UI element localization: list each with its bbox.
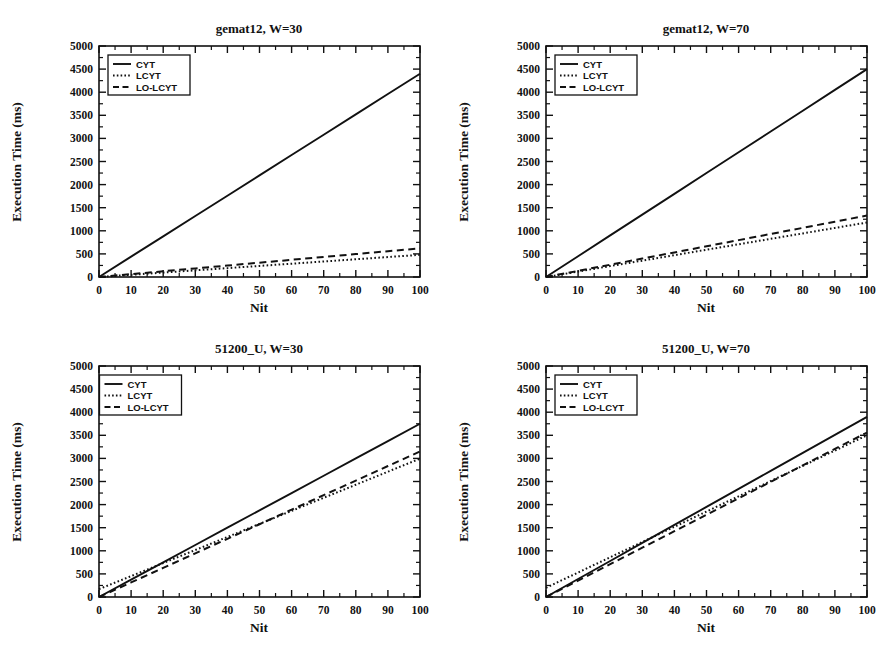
chart-svg-bottom-right: 51200_U, W=70 05001000150020002500300035… [447,320,893,654]
chart-panel-bottom-left: 51200_U, W=30 05001000150020002500300035… [0,320,446,654]
panel-title-bottom-right: 51200_U, W=70 [662,341,750,356]
x-tick-label: 80 [797,604,809,616]
y-tick-label: 2000 [70,499,93,511]
panel-title-top-left: gemat12, W=30 [216,21,303,36]
y-tick-label: 5000 [517,40,540,52]
panel-title-bottom-left: 51200_U, W=30 [215,341,303,356]
x-tick-label: 0 [543,604,549,616]
legend-label-lcyt: LCYT [136,70,161,81]
y-axis-title-bottom-right: Execution Time (ms) [456,422,471,542]
y-tick-label: 500 [523,568,541,580]
chart-svg-top-right: gemat12, W=70 05001000150020002500300035… [447,0,893,330]
x-tick-label: 50 [254,284,266,296]
y-tick-label: 3000 [70,132,93,144]
y-tick-label: 4000 [70,406,93,418]
legend-label-lcyt: LCYT [583,70,608,81]
x-tick-label: 20 [157,604,169,616]
x-tick-label: 80 [350,604,362,616]
y-tick-label: 1500 [517,522,540,534]
plot-area-bottom-left: 0500100015002000250030003500400045005000… [70,360,429,616]
y-axis-title-top-right: Execution Time (ms) [456,102,471,222]
legend: CYTLCYTLO-LCYT [100,375,182,415]
y-tick-label: 2000 [517,499,540,511]
y-tick-label: 4000 [70,86,93,98]
x-tick-label: 60 [733,284,745,296]
multi-panel-line-chart-figure: gemat12, W=30 05001000150020002500300035… [0,0,893,654]
y-tick-label: 5000 [70,40,93,52]
series-line-cyt [546,417,867,597]
legend-label-cyt: CYT [583,59,602,70]
y-tick-label: 4500 [517,383,540,395]
y-tick-label: 1000 [517,225,540,237]
x-tick-label: 40 [669,284,681,296]
y-tick-label: 3000 [517,132,540,144]
x-axis-title-bottom-left: Nit [250,620,269,635]
y-tick-label: 5000 [517,360,540,372]
x-tick-label: 100 [411,604,429,616]
legend-label-lo-lcyt: LO-LCYT [583,402,624,413]
x-tick-label: 10 [572,604,584,616]
x-tick-label: 10 [125,604,137,616]
x-tick-label: 40 [222,604,234,616]
y-tick-label: 4500 [70,63,93,75]
chart-svg-bottom-left: 51200_U, W=30 05001000150020002500300035… [0,320,446,654]
y-tick-label: 0 [534,591,540,603]
x-tick-label: 40 [222,284,234,296]
x-tick-label: 90 [829,604,841,616]
x-tick-label: 90 [829,284,841,296]
y-tick-label: 0 [87,271,93,283]
series-line-cyt [99,74,420,277]
legend-label-cyt: CYT [136,59,155,70]
y-tick-label: 3500 [70,109,93,121]
legend-label-lo-lcyt: LO-LCYT [136,82,177,93]
legend: CYTLCYTLO-LCYT [555,375,637,415]
x-tick-label: 30 [190,604,202,616]
x-axis-title-top-left: Nit [250,300,269,315]
legend-label-lo-lcyt: LO-LCYT [583,82,624,93]
y-tick-label: 3000 [70,452,93,464]
y-tick-label: 3500 [517,429,540,441]
y-tick-label: 3000 [517,452,540,464]
x-axis-title-top-right: Nit [697,300,716,315]
x-axis-title-bottom-right: Nit [697,620,716,635]
x-tick-label: 20 [604,604,616,616]
y-tick-label: 2000 [70,179,93,191]
legend-label-cyt: CYT [583,379,602,390]
legend-label-lo-lcyt: LO-LCYT [128,402,169,413]
y-tick-label: 4000 [517,406,540,418]
legend: CYTLCYTLO-LCYT [108,55,190,95]
x-tick-label: 40 [669,604,681,616]
x-tick-label: 60 [286,284,298,296]
y-tick-label: 1000 [517,545,540,557]
x-tick-label: 70 [318,284,330,296]
series-line-lo-lcyt [546,433,867,597]
y-tick-label: 2500 [70,476,93,488]
x-tick-label: 10 [125,284,137,296]
x-tick-label: 20 [604,284,616,296]
y-tick-label: 3500 [70,429,93,441]
chart-svg-top-left: gemat12, W=30 05001000150020002500300035… [0,0,446,330]
legend: CYTLCYTLO-LCYT [555,55,637,95]
x-tick-label: 90 [382,284,394,296]
x-tick-label: 60 [286,604,298,616]
x-tick-label: 30 [637,284,649,296]
y-tick-label: 0 [87,591,93,603]
x-tick-label: 90 [382,604,394,616]
x-tick-label: 0 [96,604,102,616]
x-tick-label: 100 [858,604,876,616]
y-tick-label: 4000 [517,86,540,98]
x-tick-label: 100 [858,284,876,296]
series-line-lo-lcyt [99,451,420,597]
y-axis-title-top-left: Execution Time (ms) [9,102,24,222]
x-tick-label: 70 [765,284,777,296]
y-tick-label: 2000 [517,179,540,191]
series-line-cyt [99,424,420,597]
y-tick-label: 1500 [70,522,93,534]
series-line-lcyt [546,435,867,587]
x-tick-label: 30 [637,604,649,616]
panel-title-top-right: gemat12, W=70 [663,21,750,36]
y-tick-label: 0 [534,271,540,283]
y-tick-label: 1000 [70,545,93,557]
x-tick-label: 10 [572,284,584,296]
y-tick-label: 500 [76,568,94,580]
